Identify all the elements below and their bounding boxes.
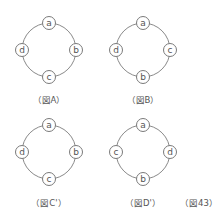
- node-top: a: [43, 119, 56, 132]
- node-left: d: [110, 44, 123, 57]
- figure-caption: （図D'）: [125, 198, 161, 208]
- node-label: c: [47, 72, 52, 82]
- node-label: c: [114, 147, 119, 157]
- ring: [22, 125, 76, 179]
- node-bottom: c: [43, 173, 56, 186]
- node-label: c: [168, 45, 173, 55]
- ring: [22, 23, 76, 77]
- node-label: a: [46, 18, 52, 28]
- node-bottom: b: [137, 71, 150, 84]
- node-left: d: [16, 44, 29, 57]
- node-right: b: [70, 44, 83, 57]
- node-label: c: [47, 174, 52, 184]
- node-label: a: [140, 18, 146, 28]
- ring: [116, 23, 170, 77]
- node-label: b: [140, 72, 146, 82]
- figure-a: a b c d （図A）: [16, 17, 83, 106]
- figure-number: （図43）: [180, 198, 218, 208]
- node-label: a: [46, 120, 52, 130]
- diagram-canvas: a b c d （図A） a c b d: [0, 0, 224, 223]
- node-label: b: [73, 45, 79, 55]
- figure-caption: （図B）: [127, 95, 160, 105]
- node-label: b: [140, 174, 146, 184]
- ring: [116, 125, 170, 179]
- node-top: a: [137, 17, 150, 30]
- node-label: a: [140, 120, 146, 130]
- node-label: d: [19, 147, 25, 157]
- node-left: c: [110, 146, 123, 159]
- node-top: a: [43, 17, 56, 30]
- figure-c-prime: a b c d （図C'）: [16, 119, 83, 209]
- node-right: d: [164, 146, 177, 159]
- node-right: b: [70, 146, 83, 159]
- node-label: d: [167, 147, 173, 157]
- node-label: d: [19, 45, 25, 55]
- figure-d-prime: a d b c （図D'）: [110, 119, 177, 209]
- node-left: d: [16, 146, 29, 159]
- figure-b: a c b d （図B）: [110, 17, 177, 106]
- node-top: a: [137, 119, 150, 132]
- node-bottom: b: [137, 173, 150, 186]
- node-bottom: c: [43, 71, 56, 84]
- node-right: c: [164, 44, 177, 57]
- node-label: d: [113, 45, 119, 55]
- figure-caption: （図C'）: [31, 198, 66, 208]
- figure-caption: （図A）: [33, 95, 66, 105]
- node-label: b: [73, 147, 79, 157]
